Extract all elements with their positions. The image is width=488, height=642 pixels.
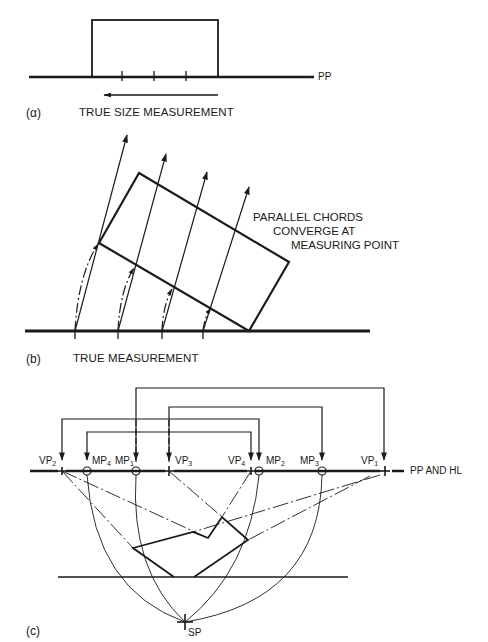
mp3-label: MP3 bbox=[300, 455, 319, 467]
vp2-label: VP2 bbox=[39, 455, 56, 467]
sp-label: SP bbox=[188, 627, 201, 638]
object-rectangle bbox=[92, 20, 218, 77]
panel-b-caption: TRUE MEASUREMENT bbox=[73, 352, 199, 364]
measuring-arc bbox=[185, 475, 322, 622]
rotated-object bbox=[99, 173, 289, 331]
panel-c bbox=[30, 388, 404, 630]
annotation-line: CONVERGE AT bbox=[273, 224, 355, 238]
annotation-line: MEASURING POINT bbox=[291, 238, 399, 252]
construction-line bbox=[62, 471, 208, 538]
vp4-label: VP4 bbox=[228, 455, 245, 467]
mp4-label: MP4 bbox=[92, 455, 111, 467]
bracket-vp2-mp2 bbox=[62, 419, 259, 460]
annotation-line: PARALLEL CHORDS bbox=[253, 210, 363, 224]
panel-a bbox=[29, 20, 314, 95]
mp1-label: MP1 bbox=[115, 455, 134, 467]
panel-a-caption: TRUE SIZE MEASUREMENT bbox=[79, 106, 234, 118]
vp1-cross-icon bbox=[380, 466, 390, 476]
panel-c-label: (c) bbox=[26, 624, 40, 638]
bracket-mp1-vp1 bbox=[136, 388, 384, 462]
measuring-arc bbox=[87, 475, 185, 622]
vp1-label: VP1 bbox=[361, 455, 378, 467]
mp2-label: MP2 bbox=[266, 455, 285, 467]
chord-arrow bbox=[75, 135, 127, 331]
construction-line bbox=[169, 471, 222, 517]
bracket-vp3-mp3 bbox=[169, 407, 322, 462]
construction-line bbox=[62, 471, 133, 548]
measuring-arc bbox=[185, 475, 259, 622]
construction-line bbox=[193, 475, 380, 532]
construction-line bbox=[222, 471, 251, 517]
pp-label: PP bbox=[318, 71, 331, 82]
panel-a-label: (α) bbox=[26, 106, 41, 120]
panel-b-label: (b) bbox=[26, 352, 41, 366]
perspective-object bbox=[133, 517, 248, 577]
chord-arrow bbox=[162, 172, 207, 331]
perspective-diagram bbox=[0, 0, 488, 642]
vp3-label: VP3 bbox=[175, 455, 192, 467]
pp-hl-label: PP AND HL bbox=[410, 465, 462, 476]
construction-line bbox=[248, 476, 370, 540]
chord-arrow bbox=[118, 154, 166, 331]
measuring-arc bbox=[135, 475, 185, 622]
